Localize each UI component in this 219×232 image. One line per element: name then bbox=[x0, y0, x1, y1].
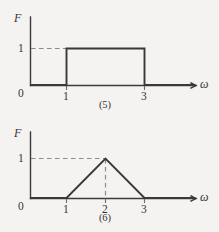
figure-caption-5: (5) bbox=[93, 100, 117, 111]
origin-label-5: 0 bbox=[18, 88, 24, 100]
figure-caption-6: (6) bbox=[93, 213, 117, 224]
origin-label-6: 0 bbox=[18, 201, 24, 213]
x-tick-label-1-5: 1 bbox=[63, 91, 69, 103]
figure-stack: F 1 0 1 3 ω (5) F 1 bbox=[0, 0, 219, 232]
x-tick-label-3-6: 3 bbox=[141, 204, 147, 216]
pulse-curve-6 bbox=[31, 159, 195, 199]
figure-5-rectangular-pulse: F 1 0 1 3 ω (5) bbox=[0, 0, 219, 116]
x-axis-label-5: ω bbox=[200, 78, 208, 90]
figure-6-triangular-pulse: F 1 0 1 2 3 ω (6) bbox=[0, 116, 219, 232]
x-tick-label-3-5: 3 bbox=[141, 91, 147, 103]
x-axis-label-6: ω bbox=[200, 191, 208, 203]
y-axis-label-6: F bbox=[14, 127, 21, 139]
y-tick-label-1-5: 1 bbox=[18, 43, 24, 55]
x-tick-label-1-6: 1 bbox=[63, 204, 69, 216]
y-tick-label-1-6: 1 bbox=[18, 153, 24, 165]
pulse-curve-5 bbox=[31, 49, 195, 86]
y-axis-label-5: F bbox=[14, 12, 21, 24]
